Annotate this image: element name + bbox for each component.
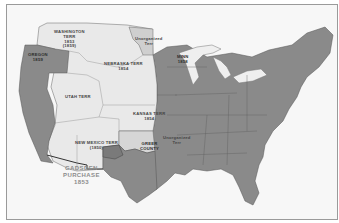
label-nebraska: NEBRASKA TERR 1854 [104, 62, 143, 72]
label-oregon: OREGON 1859 [28, 53, 48, 63]
label-greer: GREER COUNTY [140, 142, 159, 152]
label-new-mexico: NEW MEXICO TERR (1850) [75, 141, 118, 151]
label-washington: WASHINGTON TERR 1853 (1859) [54, 30, 85, 49]
label-utah: UTAH TERR [65, 95, 91, 100]
label-unorganized-south: Unorganized Terr [163, 136, 191, 146]
map-frame: WASHINGTON TERR 1853 (1859) OREGON 1859 … [6, 4, 338, 220]
label-unorganized-north: Unorganized Terr [135, 37, 163, 47]
label-kansas: KANSAS TERR 1854 [133, 112, 165, 122]
label-minn: MINN 1858 [177, 55, 189, 65]
label-gadsden: GADSDEN PURCHASE 1853 [63, 165, 100, 186]
